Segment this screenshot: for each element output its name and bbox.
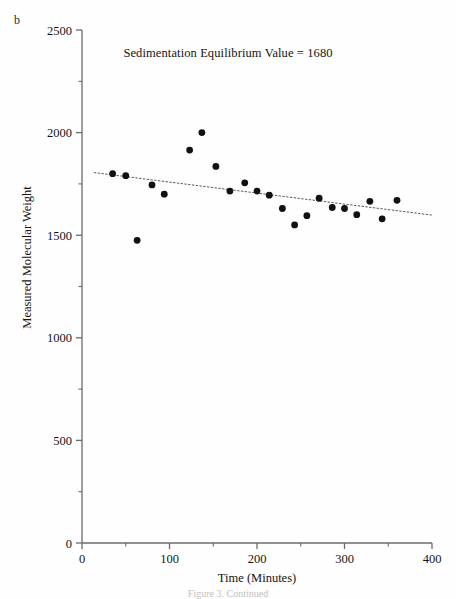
data-point [198, 129, 205, 136]
data-point [241, 179, 248, 186]
data-point [329, 204, 336, 211]
data-point [254, 188, 261, 195]
data-point [379, 215, 386, 222]
x-tick-label: 0 [79, 552, 85, 566]
data-point [266, 192, 273, 199]
figure-panel: b Sedimentation Equilibrium Value = 1680… [0, 0, 456, 599]
y-tick-label: 2000 [47, 126, 72, 140]
trendline [94, 173, 432, 215]
data-point [226, 188, 233, 195]
y-tick-label: 1500 [47, 229, 72, 243]
y-tick-label: 1000 [47, 331, 72, 345]
data-point [186, 147, 193, 154]
y-tick-label: 2500 [47, 24, 72, 38]
data-point [366, 198, 373, 205]
y-tick-label: 0 [66, 537, 72, 551]
x-tick-label: 100 [160, 552, 179, 566]
data-point [303, 212, 310, 219]
x-tick-label: 200 [248, 552, 267, 566]
data-point [291, 222, 298, 229]
data-point [212, 163, 219, 170]
scatter-plot: 050010001500200025000100200300400 [0, 0, 456, 599]
x-tick-label: 300 [335, 552, 354, 566]
data-point [316, 195, 323, 202]
x-tick-label: 400 [423, 552, 442, 566]
data-point [161, 191, 168, 198]
data-point [134, 237, 141, 244]
data-point [122, 172, 129, 179]
data-point [341, 205, 348, 212]
data-point [279, 205, 286, 212]
y-tick-label: 500 [53, 434, 72, 448]
data-point [109, 170, 116, 177]
data-point [149, 182, 156, 189]
data-point [394, 197, 401, 204]
data-point [353, 211, 360, 218]
